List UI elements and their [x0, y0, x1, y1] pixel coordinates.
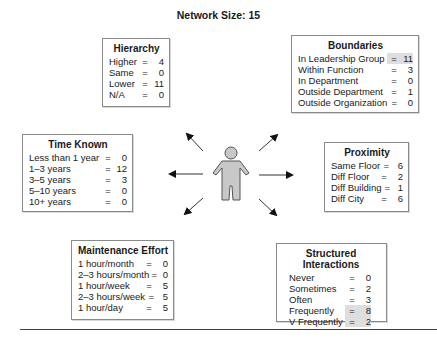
list-item: 5–10 years=0 [29, 185, 127, 196]
structured-interactions-box: Structured Interactions Never=0 Sometime… [276, 243, 387, 322]
time-known-box: Time Known Less than 1 year=0 1–3 years=… [22, 134, 133, 212]
list-item: V Frequently=2 [289, 316, 371, 327]
list-item: Same Floor=6 [331, 160, 403, 171]
arrow-down-right-icon [259, 199, 276, 215]
list-item: Less than 1 year=0 [29, 152, 127, 163]
arrow-up-right-icon [259, 135, 277, 151]
list-item: Outside Organization=0 [298, 97, 413, 108]
divider-line [20, 329, 437, 330]
list-item: Lower=11 [109, 78, 164, 89]
list-item: Same=0 [109, 67, 164, 78]
list-item: 1–3 years=12 [29, 163, 127, 174]
highlight-cell: =8 [345, 305, 371, 316]
list-item: Diff Building=1 [331, 182, 403, 193]
list-item: In Department=0 [298, 75, 413, 86]
highlight-cell: =11 [387, 53, 413, 64]
list-item: 1 hour/week=5 [78, 280, 168, 291]
maintenance-effort-box: Maintenance Effort 1 hour/month=0 2–3 ho… [71, 240, 174, 320]
maintenance-effort-heading: Maintenance Effort [78, 245, 168, 256]
list-item: Diff Floor=2 [331, 171, 403, 182]
structured-interactions-heading: Structured Interactions [281, 248, 381, 270]
arrow-down-left-icon [185, 198, 203, 214]
list-item: 1 hour/month=0 [78, 258, 168, 269]
list-item: 10+ years=0 [29, 196, 127, 207]
person-icon [213, 147, 249, 200]
list-item: Often=3 [289, 294, 371, 305]
list-item: 1 hour/day=5 [78, 302, 168, 313]
list-item: 3–5 years=3 [29, 174, 127, 185]
proximity-box: Proximity Same Floor=6 Diff Floor=2 Diff… [324, 142, 409, 212]
list-item: Sometimes=2 [289, 283, 371, 294]
list-item: In Leadership Group=11 [298, 53, 413, 64]
boundaries-heading: Boundaries [298, 40, 413, 51]
hierarchy-heading: Hierarchy [109, 43, 164, 54]
list-item: 2–3 hours/week=5 [78, 291, 168, 302]
list-item: Never=0 [289, 272, 371, 283]
arrow-up-left-icon [187, 134, 203, 151]
boundaries-box: Boundaries In Leadership Group=11 Within… [291, 35, 419, 113]
proximity-heading: Proximity [331, 147, 403, 158]
list-item: Higher=4 [109, 56, 164, 67]
list-item: 2–3 hours/month=0 [78, 269, 168, 280]
list-item: Diff City=6 [331, 193, 403, 204]
list-item: Frequently=8 [289, 305, 371, 316]
hierarchy-box: Hierarchy Higher=4 Same=0 Lower=11 N/A=0 [102, 38, 170, 107]
time-known-heading: Time Known [29, 139, 127, 150]
list-item: Within Function=3 [298, 64, 413, 75]
highlight-cell: =2 [345, 316, 371, 327]
list-item: N/A=0 [109, 89, 164, 100]
list-item: Outside Department=1 [298, 86, 413, 97]
